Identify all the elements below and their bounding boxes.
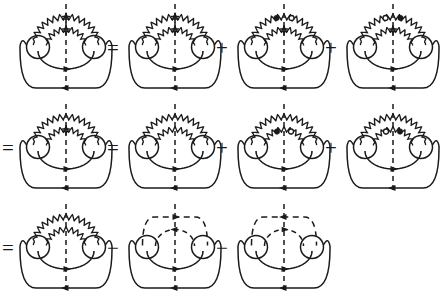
lower-fermion-arrow bbox=[279, 285, 287, 291]
diagram-d2[interactable] bbox=[129, 4, 221, 92]
lower-fermion-arrow bbox=[61, 85, 69, 91]
right-blob-join bbox=[433, 141, 440, 146]
outer-contour-arrow bbox=[279, 214, 287, 220]
operator-d6: = bbox=[107, 136, 119, 160]
upper-fermion-arrow bbox=[64, 166, 72, 172]
inner-filled-vertex-dot bbox=[397, 129, 402, 134]
upper-fermion-arrow bbox=[282, 166, 290, 172]
lower-fermion-arrow bbox=[279, 185, 287, 191]
inner-contour-arrow bbox=[170, 227, 177, 233]
operator-d4: + bbox=[325, 36, 337, 60]
diagram-d6[interactable] bbox=[129, 104, 221, 192]
right-blob-join bbox=[433, 41, 440, 46]
left-blob-join bbox=[129, 141, 136, 146]
left-blob-join bbox=[238, 241, 245, 246]
left-blob-join bbox=[347, 41, 354, 46]
lower-fermion-arrow bbox=[61, 185, 69, 191]
operator-d2: = bbox=[107, 36, 119, 60]
upper-fermion-arrow bbox=[173, 66, 181, 72]
upper-fermion-arrow bbox=[391, 66, 399, 72]
diagram-d11[interactable] bbox=[238, 204, 330, 292]
operator-d8: + bbox=[325, 136, 337, 160]
lower-fermion-arrow bbox=[388, 85, 396, 91]
feynman-diagram-figure: =++==++=−− bbox=[0, 0, 446, 300]
outer-open-vertex-circle bbox=[383, 16, 388, 21]
diagram-d7[interactable] bbox=[238, 104, 330, 192]
row-lead-operator-row-2: = bbox=[2, 136, 14, 160]
left-blob-join bbox=[20, 41, 27, 46]
diagram-d1[interactable] bbox=[20, 4, 112, 92]
diagram-d10[interactable] bbox=[129, 204, 221, 292]
left-blob-join bbox=[129, 241, 136, 246]
inner-open-vertex-circle bbox=[384, 129, 389, 134]
upper-fermion-arrow bbox=[282, 66, 290, 72]
diagram-d9[interactable] bbox=[20, 204, 112, 292]
right-blob-join bbox=[324, 241, 331, 246]
left-blob-join bbox=[129, 41, 136, 46]
upper-fermion-arrow bbox=[64, 66, 72, 72]
outer-filled-vertex-dot bbox=[398, 15, 403, 20]
upper-fermion-arrow bbox=[282, 266, 290, 272]
lower-fermion-arrow bbox=[388, 185, 396, 191]
operator-d3: + bbox=[216, 36, 228, 60]
outer-open-vertex-circle bbox=[289, 16, 294, 21]
outer-contour-arrow bbox=[173, 214, 181, 220]
lower-fermion-arrow bbox=[61, 285, 69, 291]
upper-fermion-arrow bbox=[173, 166, 181, 172]
diagram-d3[interactable] bbox=[238, 4, 330, 92]
operator-d10: − bbox=[107, 236, 119, 260]
upper-fermion-arrow bbox=[64, 266, 72, 272]
lower-fermion-arrow bbox=[170, 85, 178, 91]
left-blob-join bbox=[20, 141, 27, 146]
row-lead-operator-row-3: = bbox=[2, 236, 14, 260]
inner-filled-vertex-dot bbox=[274, 129, 279, 134]
upper-fermion-arrow bbox=[391, 166, 399, 172]
outer-filled-vertex-dot bbox=[274, 15, 279, 20]
diagram-canvas: =++==++=−− bbox=[0, 0, 446, 300]
operator-d7: + bbox=[216, 136, 228, 160]
left-blob-join bbox=[238, 141, 245, 146]
lower-fermion-arrow bbox=[170, 185, 178, 191]
diagram-d8[interactable] bbox=[347, 104, 439, 192]
lower-fermion-arrow bbox=[279, 85, 287, 91]
operator-d11: − bbox=[216, 236, 228, 260]
inner-open-vertex-circle bbox=[289, 129, 294, 134]
left-blob-join bbox=[238, 41, 245, 46]
diagram-d4[interactable] bbox=[347, 4, 439, 92]
upper-fermion-arrow bbox=[173, 266, 181, 272]
inner-contour-arrow bbox=[282, 227, 289, 233]
diagram-d5[interactable] bbox=[20, 104, 112, 192]
left-blob-join bbox=[347, 141, 354, 146]
left-blob-join bbox=[20, 241, 27, 246]
lower-fermion-arrow bbox=[170, 285, 178, 291]
